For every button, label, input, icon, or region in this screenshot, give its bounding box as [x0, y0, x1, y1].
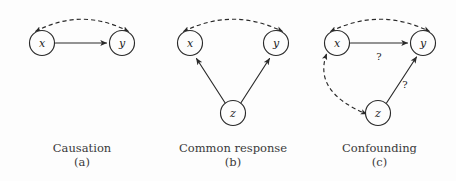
causal-diagram-figure: x y x y z ? ? x: [0, 0, 456, 181]
node-z-c-label: z: [374, 107, 381, 120]
edge-z-to-y-question-label: ?: [402, 79, 407, 90]
caption-common-response: Common response (b): [153, 141, 313, 169]
node-y-a-label: y: [118, 37, 126, 50]
edge-x-y-association-b: [184, 19, 283, 31]
panel-common-response: x y z: [178, 19, 289, 125]
panel-causation: x y: [30, 19, 135, 55]
caption-confounding-letter: (c): [303, 155, 456, 169]
edge-x-z-association-c: [324, 54, 367, 114]
caption-causation: Causation (a): [0, 141, 164, 169]
node-x-b-label: x: [187, 37, 194, 50]
edge-x-y-association-a: [36, 19, 129, 31]
node-x-a-label: x: [39, 37, 46, 50]
node-y-b-label: y: [272, 37, 280, 50]
node-x-c-label: x: [334, 37, 341, 50]
panel-confounding: ? ? x y z: [324, 19, 436, 125]
edge-z-to-y-b: [241, 59, 270, 104]
node-z-b-label: z: [229, 107, 236, 120]
caption-confounding: Confounding (c): [303, 141, 456, 169]
edge-x-to-y-question-label: ?: [376, 51, 381, 62]
caption-common-response-title: Common response: [153, 141, 313, 155]
caption-common-response-letter: (b): [153, 155, 313, 169]
caption-causation-title: Causation: [0, 141, 164, 155]
caption-confounding-title: Confounding: [303, 141, 456, 155]
caption-causation-letter: (a): [0, 155, 164, 169]
edge-x-y-association-c: [331, 19, 430, 31]
edge-z-to-x-b: [197, 59, 226, 104]
node-y-c-label: y: [419, 37, 427, 50]
